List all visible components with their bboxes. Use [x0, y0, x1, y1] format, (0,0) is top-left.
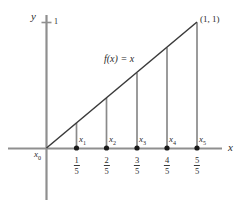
partition-point-label-x3: x3 [139, 135, 146, 146]
x-tick-fraction-1: 1 5 [73, 156, 79, 176]
partition-point-label-x0: x0 [34, 150, 41, 161]
partition-point-label-x1-sub: 1 [83, 140, 86, 146]
corner-point-label: (1, 1) [200, 15, 220, 24]
x-tick-fraction-2: 2 5 [103, 156, 109, 176]
x-tick-fraction-5: 5 5 [194, 156, 200, 176]
x-axis-label: x [228, 142, 233, 153]
partition-dot-2 [104, 145, 109, 150]
partition-point-label-x2: x2 [109, 135, 116, 146]
x-tick-fraction-2-numerator: 2 [103, 156, 109, 165]
x-tick-fraction-3-denominator: 5 [134, 167, 140, 176]
x-tick-fraction-4-denominator: 5 [164, 167, 170, 176]
x-tick-fraction-1-denominator: 5 [73, 167, 79, 176]
partition-dot-5 [194, 145, 199, 150]
partition-point-label-x4: x4 [169, 135, 176, 146]
partition-dot-3 [134, 145, 139, 150]
x-tick-fraction-2-denominator: 5 [103, 167, 109, 176]
x-tick-fraction-3: 3 5 [134, 156, 140, 176]
partition-point-label-x1: x1 [79, 135, 86, 146]
figure-canvas: y 1 x f(x) = x (1, 1) x0 x1 x2 x3 x4 x5 … [0, 0, 249, 208]
function-label: f(x) = x [104, 54, 134, 64]
partition-point-label-x5: x5 [199, 135, 206, 146]
partition-dot-4 [164, 145, 169, 150]
x-tick-fraction-1-numerator: 1 [73, 156, 79, 165]
x-tick-fraction-3-numerator: 3 [134, 156, 140, 165]
x-tick-fraction-5-numerator: 5 [194, 156, 200, 165]
partition-point-label-x3-sub: 3 [143, 140, 146, 146]
y-axis-label: y [31, 11, 36, 22]
x-tick-fraction-4: 4 5 [164, 156, 170, 176]
partition-dot-1 [74, 145, 79, 150]
plot-svg [0, 0, 249, 208]
partition-point-label-x2-sub: 2 [113, 140, 116, 146]
partition-point-label-x4-sub: 4 [173, 140, 176, 146]
partition-point-label-x0-sub: 0 [38, 155, 41, 161]
function-line [47, 22, 198, 148]
y-tick-label: 1 [54, 18, 58, 26]
partition-point-label-x5-sub: 5 [203, 140, 206, 146]
x-tick-fraction-4-numerator: 4 [164, 156, 170, 165]
x-tick-fraction-5-denominator: 5 [194, 167, 200, 176]
